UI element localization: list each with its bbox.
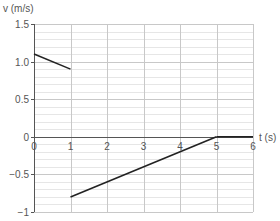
x-tick-label: 3 (141, 141, 147, 152)
velocity-line-segment (34, 54, 71, 69)
y-tick-label: 0.5 (15, 94, 29, 105)
x-axis-label: t (s) (259, 132, 276, 143)
tick-labels: 1.51.00.50−0.5−10123456 (9, 19, 256, 218)
y-tick-label: 1.0 (15, 57, 29, 68)
y-tick-label: 0 (23, 132, 29, 143)
y-tick-label: −1 (18, 207, 30, 218)
x-tick-label: 1 (68, 141, 74, 152)
x-tick-label: 5 (214, 141, 220, 152)
major-gridlines (34, 24, 254, 213)
velocity-time-chart: 1.51.00.50−0.5−10123456 v (m/s) t (s) (0, 0, 280, 221)
axes (31, 24, 253, 213)
minor-gridlines (34, 25, 253, 213)
y-axis-label: v (m/s) (3, 3, 34, 14)
x-tick-label: 0 (31, 141, 37, 152)
y-tick-label: −0.5 (9, 169, 29, 180)
data-series (34, 54, 253, 197)
x-tick-label: 2 (104, 141, 110, 152)
x-tick-label: 4 (177, 141, 183, 152)
y-tick-label: 1.5 (15, 19, 29, 30)
x-tick-label: 6 (250, 141, 256, 152)
